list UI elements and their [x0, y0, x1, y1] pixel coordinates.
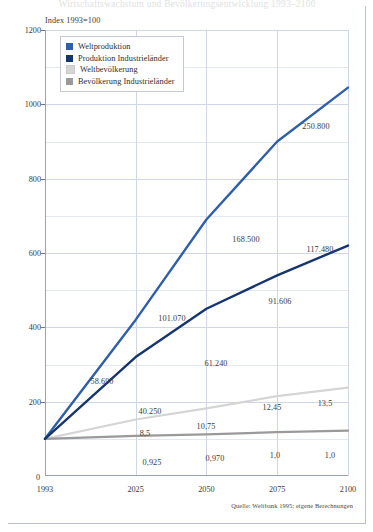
y-tick-label: 800 [29, 174, 41, 183]
y-tick-label: 1200 [25, 26, 41, 35]
page-border-right [365, 6, 366, 524]
origin-zero-label: 0 [36, 473, 40, 482]
data-point-label: 250.800 [302, 122, 329, 131]
data-point-label: 13,5 [318, 399, 333, 408]
legend-swatch-icon [66, 43, 73, 50]
chart-legend: WeltproduktionProduktion Industrieländer… [60, 36, 184, 92]
page-border-bottom [8, 523, 365, 524]
x-tick-label: 2075 [269, 485, 285, 494]
x-tick-label: 2100 [340, 485, 356, 494]
series-lines [45, 30, 348, 476]
data-point-label: 12,45 [263, 403, 282, 412]
source-note: Quelle: Weltbank 1995; eigene Berechnung… [231, 502, 353, 509]
legend-item: Produktion Industrieländer [66, 53, 175, 65]
legend-swatch-icon [66, 78, 73, 85]
data-point-label: 1,0 [325, 451, 336, 460]
data-point-label: 1,0 [270, 451, 281, 460]
y-tick-label: 1000 [25, 100, 41, 109]
series-line [45, 431, 348, 439]
x-tick-label: 2050 [198, 485, 214, 494]
data-point-label: 0,925 [143, 458, 162, 467]
data-point-label: 58.690 [90, 377, 113, 386]
legend-item: Weltbevölkerung [66, 64, 175, 76]
data-point-label: 8,5 [140, 429, 151, 438]
legend-swatch-icon [66, 65, 75, 74]
legend-swatch-icon [66, 55, 73, 62]
data-point-label: 91.606 [268, 297, 291, 306]
legend-item-label: Produktion Industrieländer [78, 54, 168, 63]
legend-item: Bevölkerung Industrieländer [66, 76, 175, 88]
legend-item: Weltproduktion [66, 41, 175, 53]
data-point-label: 10,75 [197, 422, 216, 431]
chart-page: Wirtschaftswachstum und Bevölkerungsentw… [0, 0, 373, 532]
data-point-label: 61.240 [204, 359, 227, 368]
x-tick-label: 1993 [37, 485, 53, 494]
data-point-label: 168.500 [232, 235, 259, 244]
plot-area: 20040060080010001200 1993202520502075210… [45, 30, 348, 476]
y-tick-label: 600 [29, 249, 41, 258]
gridline-v [348, 30, 349, 476]
y-tick-label: 200 [29, 397, 41, 406]
x-tick-label: 2025 [127, 485, 143, 494]
index-caption: Index 1993=100 [45, 16, 100, 25]
data-point-label: 0,970 [206, 454, 225, 463]
legend-item-label: Weltbevölkerung [80, 65, 138, 74]
data-point-label: 40.250 [138, 407, 161, 416]
faded-headline: Wirtschaftswachstum und Bevölkerungsentw… [22, 0, 352, 9]
legend-item-label: Bevölkerung Industrieländer [78, 77, 175, 86]
data-point-label: 117.480 [306, 245, 333, 254]
series-line [45, 88, 348, 439]
legend-item-label: Weltproduktion [78, 42, 131, 51]
data-point-label: 101.070 [158, 314, 185, 323]
y-tick-label: 400 [29, 323, 41, 332]
